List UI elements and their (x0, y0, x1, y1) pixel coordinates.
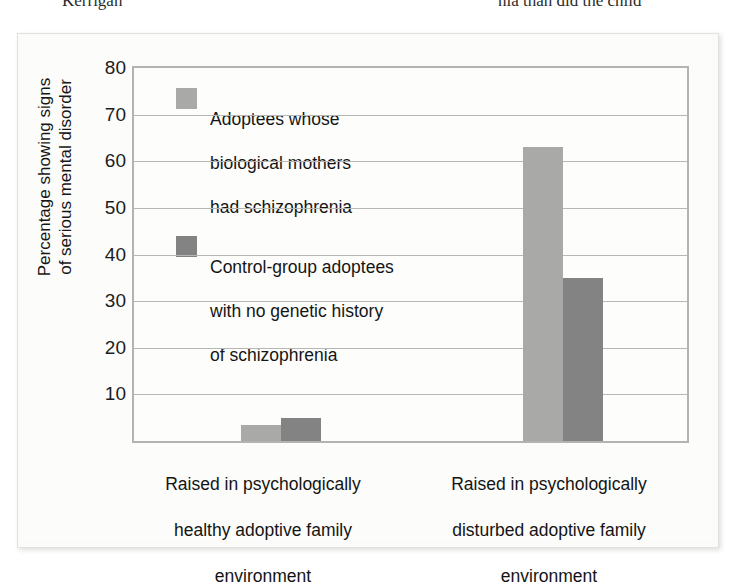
x-axis-label-0-line-3: environment (215, 566, 311, 586)
page-text-fragment-right: nia than did the child (498, 0, 642, 11)
gridline (134, 208, 687, 209)
x-axis-label-0-line-1: Raised in psychologically (165, 474, 361, 494)
page-text-fragment-left: Kerrigan (62, 0, 122, 11)
legend-item-0: Adoptees whose biological mothers had sc… (176, 86, 466, 218)
legend-label-1-line-1: Control-group adoptees (210, 257, 394, 277)
gridline (134, 255, 687, 256)
plot-area: Adoptees whose biological mothers had sc… (132, 66, 689, 443)
x-axis-label-1-line-3: environment (501, 566, 597, 586)
x-axis-label-1: Raised in psychologically disturbed adop… (424, 450, 674, 586)
bar-group-1-series-0 (523, 147, 563, 441)
y-axis-title-line-1: Percentage showing signs (34, 27, 55, 327)
y-axis-tick-10: 10 (86, 383, 126, 405)
y-axis-tick-20: 20 (86, 337, 126, 359)
figure-card: Percentage showing signs of serious ment… (17, 33, 719, 548)
gridline (134, 394, 687, 395)
figure-inner: Percentage showing signs of serious ment… (22, 38, 712, 541)
bar-group-0-series-1 (281, 418, 321, 441)
legend-label-0: Adoptees whose biological mothers had sc… (210, 86, 352, 218)
legend-label-1-line-2: with no genetic history (210, 301, 383, 321)
gridline (134, 115, 687, 116)
x-axis-labels: Raised in psychologically healthy adopti… (132, 450, 689, 530)
legend-swatch-light (176, 88, 197, 109)
page-text-strip: Kerrigan nia than did the child (0, 0, 742, 18)
legend: Adoptees whose biological mothers had sc… (176, 86, 466, 382)
y-axis-title: Percentage showing signs of serious ment… (34, 27, 76, 327)
y-axis-title-line-2: of serious mental disorder (55, 27, 76, 327)
y-axis-tick-30: 30 (86, 290, 126, 312)
y-axis-tick-70: 70 (86, 104, 126, 126)
legend-label-0-line-2: biological mothers (210, 153, 351, 173)
y-axis-tick-50: 50 (86, 197, 126, 219)
gridline (134, 348, 687, 349)
gridline (134, 161, 687, 162)
legend-label-0-line-1: Adoptees whose (210, 109, 339, 129)
x-axis-label-0: Raised in psychologically healthy adopti… (138, 450, 388, 586)
x-axis-label-1-line-1: Raised in psychologically (451, 474, 647, 494)
y-axis-tick-60: 60 (86, 150, 126, 172)
bar-group-0-series-0 (241, 425, 281, 441)
y-axis-tick-40: 40 (86, 244, 126, 266)
y-axis-tick-80: 80 (86, 57, 126, 79)
gridline (134, 301, 687, 302)
y-axis-tick-labels: 8070605040302010 (80, 66, 126, 443)
bar-group-1-series-1 (563, 278, 603, 441)
x-axis-label-0-line-2: healthy adoptive family (174, 520, 352, 540)
x-axis-label-1-line-2: disturbed adoptive family (452, 520, 646, 540)
